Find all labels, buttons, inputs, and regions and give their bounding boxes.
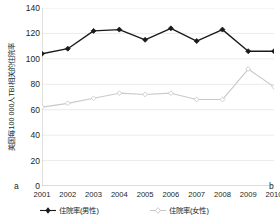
y-axis-tick-label: 100: [14, 55, 40, 64]
data-point-marker: [168, 91, 173, 96]
x-axis-tick-labels: 2001200220032004200520062007200820092010: [42, 191, 274, 203]
data-point-marker: [65, 101, 70, 106]
y-axis-tick-label: 80: [14, 80, 40, 89]
plot-area: [42, 8, 274, 186]
x-axis-tick-label: 2002: [59, 191, 76, 199]
x-axis-tick-label: 2010: [266, 191, 280, 199]
y-axis-tick-label: 60: [14, 105, 40, 114]
plot-svg: [42, 8, 274, 186]
legend-key-female-icon: [150, 206, 166, 215]
legend-key-male-icon: [40, 206, 56, 215]
x-axis-tick-label: 2005: [137, 191, 154, 199]
series-female: [42, 67, 274, 110]
x-axis-tick-label: 2009: [240, 191, 257, 199]
data-point-marker: [194, 97, 199, 102]
y-axis-tick-label: 20: [14, 156, 40, 165]
series-line: [42, 69, 274, 107]
data-point-marker: [42, 105, 44, 110]
data-point-marker: [42, 51, 45, 56]
x-axis-tick-label: 2004: [111, 191, 128, 199]
legend-item-female: 住院率(女性): [150, 206, 209, 215]
y-axis-tick-label: 140: [14, 4, 40, 13]
legend-label-male: 住院率(男性): [59, 206, 99, 215]
data-point-marker: [272, 49, 275, 54]
data-point-marker: [194, 39, 199, 44]
legend-item-male: 住院率(男性): [40, 206, 99, 215]
series-male: [42, 26, 274, 56]
data-point-marker: [91, 96, 96, 101]
data-point-marker: [143, 37, 148, 42]
chart-legend: 住院率(男性) 住院率(女性): [0, 205, 280, 219]
data-point-marker: [117, 91, 122, 96]
data-point-marker: [168, 26, 173, 31]
data-point-marker: [117, 27, 122, 32]
x-axis-tick-label: 2007: [188, 191, 205, 199]
data-point-marker: [143, 92, 148, 97]
x-axis-tick-label: 2006: [162, 191, 179, 199]
y-axis-tick-labels: 140120100806040200: [14, 0, 40, 190]
x-axis-tick-label: 2008: [214, 191, 231, 199]
x-axis-tick-label: 2001: [34, 191, 51, 199]
y-axis-tick-label: 120: [14, 29, 40, 38]
tbi-hospitalization-rate-chart: 美国每100 000人TBI相关的住院率 140120100806040200 …: [0, 0, 280, 221]
x-axis-tick-label: 2003: [85, 191, 102, 199]
legend-label-female: 住院率(女性): [169, 206, 209, 215]
series-line: [42, 28, 274, 53]
panel-label-a: a: [14, 181, 19, 191]
y-axis-tick-label: 40: [14, 131, 40, 140]
